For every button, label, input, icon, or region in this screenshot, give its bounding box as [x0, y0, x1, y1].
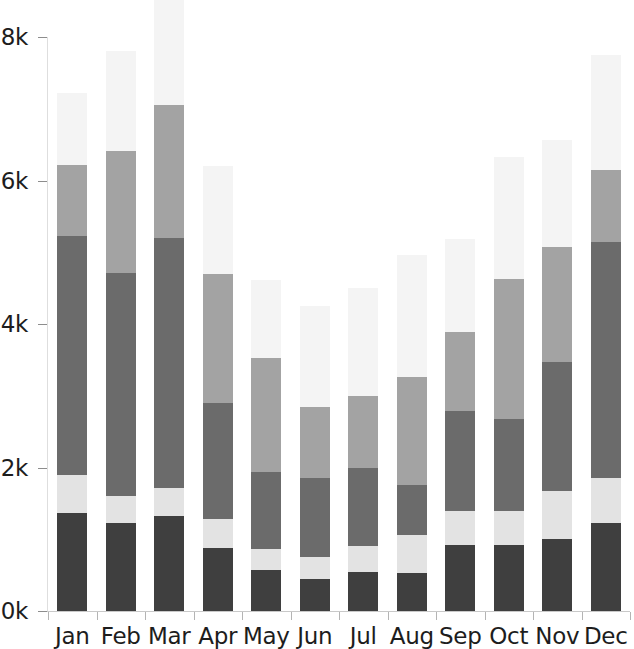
bar-segment[interactable]: [445, 545, 475, 611]
bar-segment[interactable]: [494, 545, 524, 611]
bar-group[interactable]: [533, 37, 582, 611]
bar-segment[interactable]: [251, 472, 281, 549]
bar-segment[interactable]: [542, 247, 572, 362]
bar-stack[interactable]: [348, 288, 378, 611]
bar-segment[interactable]: [494, 157, 524, 279]
x-tick-mark: [242, 612, 243, 620]
x-tick-mark: [485, 612, 486, 620]
bar-group[interactable]: [194, 37, 243, 611]
bar-group[interactable]: [291, 37, 340, 611]
bar-segment[interactable]: [397, 485, 427, 535]
bar-segment[interactable]: [348, 288, 378, 396]
bar-stack[interactable]: [57, 93, 87, 611]
x-axis: JanFebMarAprMayJunJulAugSepOctNovDec: [48, 612, 630, 649]
bar-segment[interactable]: [154, 105, 184, 238]
bar-segment[interactable]: [203, 548, 233, 611]
bar-segment[interactable]: [300, 306, 330, 406]
bar-group[interactable]: [97, 37, 146, 611]
x-tick-mark: [630, 612, 631, 620]
bar-stack[interactable]: [397, 255, 427, 611]
y-axis: 0k2k4k6k8k: [0, 0, 38, 649]
bar-stack[interactable]: [203, 166, 233, 611]
bar-segment[interactable]: [445, 411, 475, 511]
bar-segment[interactable]: [445, 511, 475, 545]
bar-group[interactable]: [242, 37, 291, 611]
bar-segment[interactable]: [542, 491, 572, 538]
bar-segment[interactable]: [591, 55, 621, 170]
bar-segment[interactable]: [300, 557, 330, 579]
x-tick-label-aug: Aug: [390, 623, 434, 649]
bar-segment[interactable]: [445, 332, 475, 411]
bar-segment[interactable]: [348, 572, 378, 611]
y-tick-label: 0k: [1, 598, 28, 624]
bar-group[interactable]: [485, 37, 534, 611]
bar-stack[interactable]: [542, 140, 572, 611]
bar-stack[interactable]: [445, 239, 475, 611]
y-tick-mark: [38, 611, 47, 612]
bar-segment[interactable]: [203, 403, 233, 519]
bar-stack[interactable]: [154, 0, 184, 611]
bar-segment[interactable]: [494, 419, 524, 510]
bar-segment[interactable]: [57, 513, 87, 611]
bar-segment[interactable]: [300, 407, 330, 479]
bar-segment[interactable]: [591, 242, 621, 478]
bar-group[interactable]: [145, 37, 194, 611]
bar-segment[interactable]: [348, 468, 378, 547]
bar-segment[interactable]: [154, 488, 184, 515]
bar-stack[interactable]: [106, 51, 136, 611]
y-tick-mark: [38, 324, 47, 325]
bar-segment[interactable]: [300, 478, 330, 557]
bar-segment[interactable]: [542, 362, 572, 491]
bar-segment[interactable]: [57, 236, 87, 474]
bar-segment[interactable]: [251, 570, 281, 611]
bar-segment[interactable]: [106, 151, 136, 273]
bar-segment[interactable]: [591, 170, 621, 242]
bar-segment[interactable]: [203, 274, 233, 403]
x-tick-mark: [533, 612, 534, 620]
bar-group[interactable]: [582, 37, 631, 611]
bar-segment[interactable]: [591, 523, 621, 611]
bar-segment[interactable]: [154, 516, 184, 611]
bar-segment[interactable]: [397, 573, 427, 611]
bar-segment[interactable]: [57, 165, 87, 237]
bar-group[interactable]: [436, 37, 485, 611]
bar-stack[interactable]: [300, 306, 330, 611]
bar-segment[interactable]: [154, 0, 184, 105]
bar-stack[interactable]: [591, 55, 621, 611]
bar-segment[interactable]: [203, 166, 233, 274]
bar-segment[interactable]: [542, 539, 572, 611]
bar-stack[interactable]: [494, 157, 524, 611]
bar-segment[interactable]: [542, 140, 572, 248]
bar-segment[interactable]: [57, 475, 87, 513]
bar-stack[interactable]: [251, 280, 281, 611]
x-tick-label-feb: Feb: [101, 623, 141, 649]
bar-segment[interactable]: [251, 280, 281, 359]
y-tick-mark: [38, 181, 47, 182]
bar-segment[interactable]: [106, 273, 136, 495]
bar-segment[interactable]: [591, 478, 621, 523]
x-tick-mark: [194, 612, 195, 620]
x-tick-mark: [97, 612, 98, 620]
bar-segment[interactable]: [397, 535, 427, 573]
bar-segment[interactable]: [154, 238, 184, 488]
bar-segment[interactable]: [348, 396, 378, 468]
x-tick-label-jul: Jul: [350, 623, 377, 649]
bar-group[interactable]: [339, 37, 388, 611]
bar-segment[interactable]: [251, 358, 281, 471]
x-tick-label-mar: Mar: [148, 623, 191, 649]
bar-segment[interactable]: [397, 255, 427, 377]
bar-segment[interactable]: [251, 549, 281, 571]
bar-segment[interactable]: [348, 546, 378, 571]
bar-segment[interactable]: [494, 511, 524, 545]
bar-segment[interactable]: [106, 496, 136, 523]
bar-segment[interactable]: [397, 377, 427, 485]
bar-segment[interactable]: [494, 279, 524, 420]
bar-group[interactable]: [48, 37, 97, 611]
bar-segment[interactable]: [445, 239, 475, 332]
bar-segment[interactable]: [106, 523, 136, 611]
bar-segment[interactable]: [57, 93, 87, 165]
bar-group[interactable]: [388, 37, 437, 611]
bar-segment[interactable]: [203, 519, 233, 548]
bar-segment[interactable]: [106, 51, 136, 151]
bar-segment[interactable]: [300, 579, 330, 611]
